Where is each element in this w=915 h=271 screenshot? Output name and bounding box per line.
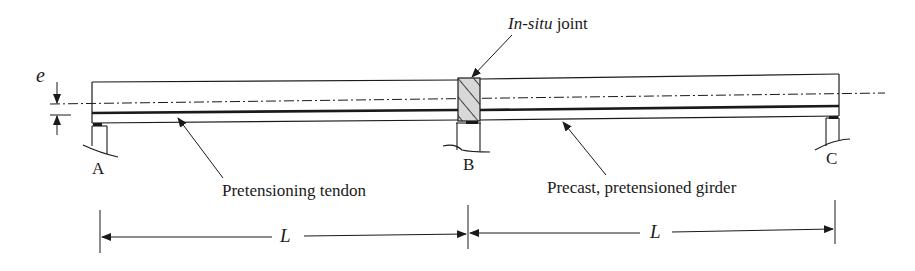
support-b	[443, 121, 490, 152]
girder-span-2	[480, 74, 839, 120]
span-1-label: L	[279, 225, 291, 246]
support-c	[815, 116, 850, 150]
support-c-label: C	[826, 149, 837, 168]
girder-label: Precast, pretensioned girder	[547, 178, 737, 197]
support-b-label: B	[463, 155, 474, 174]
joint-suffix-text: joint	[552, 14, 588, 33]
in-situ-joint	[458, 78, 480, 121]
continuous-girder-diagram: e In-situ joint A B C Pretensioning tend…	[0, 0, 915, 271]
eccentricity-dimension	[50, 82, 71, 135]
tendon-leader-arrow	[178, 118, 223, 178]
span-2-label: L	[649, 221, 661, 242]
tendon-label: Pretensioning tendon	[222, 181, 367, 200]
joint-leader-arrow	[472, 35, 512, 77]
girder-leader-arrow	[563, 122, 606, 175]
support-a	[83, 123, 118, 157]
in-situ-italic-text: In-situ	[507, 14, 552, 33]
in-situ-joint-label: In-situ joint	[507, 14, 588, 33]
eccentricity-label: e	[36, 64, 45, 86]
support-a-label: A	[92, 159, 105, 178]
span-dimensions	[100, 200, 835, 253]
